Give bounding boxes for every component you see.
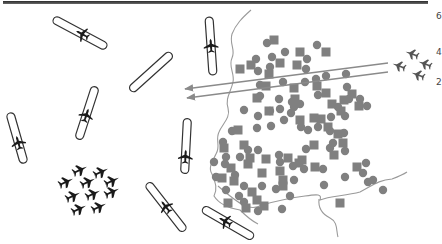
target-circle-icon <box>319 165 327 173</box>
target-circle-icon <box>236 153 244 161</box>
target-square-icon <box>218 174 227 183</box>
target-square-icon <box>296 48 305 57</box>
fighter-jet-icon <box>84 186 103 203</box>
target-square-icon <box>253 94 262 103</box>
attack-jet-icon <box>391 59 407 73</box>
target-circle-icon <box>327 113 335 121</box>
target-square-icon <box>224 199 233 208</box>
target-square-icon <box>253 196 262 205</box>
target-square-icon <box>279 182 288 191</box>
target-circle-icon <box>304 126 312 134</box>
runway <box>50 12 110 53</box>
target-circle-icon <box>314 91 322 99</box>
fighter-jet-icon <box>92 164 111 181</box>
target-square-icon <box>246 154 255 163</box>
target-square-icon <box>276 167 285 176</box>
runway <box>177 118 195 174</box>
target-circle-icon <box>313 41 321 49</box>
target-circle-icon <box>314 123 322 131</box>
target-circle-icon <box>281 48 289 56</box>
target-square-icon <box>311 163 320 172</box>
target-circle-icon <box>210 158 218 166</box>
runway-outline <box>181 118 192 173</box>
target-circle-icon <box>240 182 248 190</box>
runway <box>142 179 191 235</box>
target-square-icon <box>262 82 271 91</box>
target-square-icon <box>322 89 331 98</box>
target-square-icon <box>295 159 304 168</box>
target-square-icon <box>339 139 348 148</box>
fighter-jet-icon <box>71 162 90 179</box>
target-circle-icon <box>320 181 328 189</box>
runway <box>202 17 221 76</box>
target-square-icon <box>291 95 300 104</box>
fighter-jet-icon <box>57 174 76 191</box>
target-square-icon <box>293 61 302 70</box>
airplane-icon <box>203 38 219 53</box>
target-square-icon <box>353 163 362 172</box>
attack-jet-group <box>391 47 433 82</box>
top-border-bar <box>3 1 428 4</box>
target-circle-icon <box>267 122 275 130</box>
target-circle-icon <box>369 176 377 184</box>
target-circle-icon <box>276 105 284 113</box>
target-square-icon <box>317 115 326 124</box>
target-square-icon <box>265 70 274 79</box>
attack-jet-icon <box>417 57 433 71</box>
target-square-icon <box>258 169 267 178</box>
target-circle-icon <box>254 112 262 120</box>
attack-jet-icon <box>410 68 426 82</box>
runway <box>3 111 31 165</box>
target-square-icon <box>340 96 349 105</box>
target-square-icon <box>236 65 245 74</box>
target-circle-icon <box>222 186 230 194</box>
river-branch-line <box>319 199 338 237</box>
target-circle-icon <box>302 65 310 73</box>
target-square-icon <box>337 107 346 116</box>
target-circle-icon <box>254 146 262 154</box>
target-circle-icon <box>286 192 294 200</box>
runways <box>3 12 257 243</box>
target-circle-icon <box>222 153 230 161</box>
attack-jet-icon <box>404 47 420 61</box>
target-square-icon <box>348 90 357 99</box>
target-circle-icon <box>302 145 310 153</box>
target-square-icon <box>234 126 243 135</box>
target-circle-icon <box>379 186 387 194</box>
target-circle-icon <box>268 53 276 61</box>
target-square-icon <box>248 188 257 197</box>
target-square-icon <box>242 204 251 213</box>
target-square-icon <box>296 116 305 125</box>
target-circle-icon <box>341 147 349 155</box>
ground-targets <box>210 36 387 216</box>
target-circle-icon <box>322 72 330 80</box>
fighter-jet-icon <box>103 173 122 190</box>
target-circle-icon <box>278 205 286 213</box>
fighter-jet-icon <box>64 188 83 205</box>
target-square-icon <box>284 154 293 163</box>
runway <box>72 85 103 142</box>
target-circle-icon <box>362 159 370 167</box>
fighter-jet-icon <box>70 201 89 218</box>
target-square-icon <box>265 107 274 116</box>
target-square-icon <box>322 48 331 57</box>
country-border <box>210 10 407 237</box>
target-circle-icon <box>258 182 266 190</box>
target-square-icon <box>355 102 364 111</box>
target-square-icon <box>240 141 249 150</box>
edge-label-6: 6 <box>436 12 442 21</box>
edge-label-2: 2 <box>436 78 442 87</box>
target-circle-icon <box>280 116 288 124</box>
target-square-icon <box>227 164 236 173</box>
fighter-jet-icon <box>90 199 109 216</box>
target-square-icon <box>230 177 239 186</box>
fighter-jet-icon <box>79 174 98 191</box>
fighter-formation <box>57 162 122 218</box>
airplane-icon <box>178 149 193 164</box>
edge-label-4: 4 <box>436 48 442 57</box>
target-circle-icon <box>240 106 248 114</box>
runway <box>128 51 174 94</box>
target-square-icon <box>328 100 337 109</box>
